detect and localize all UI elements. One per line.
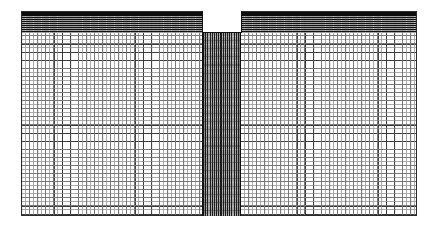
refined-column-outline: [202, 32, 241, 216]
mesh-domain: [21, 11, 417, 216]
fem-mesh-figure: Finite element mesh of a notched rectang…: [0, 0, 439, 228]
notch-outline: [202, 11, 242, 33]
figure-title: Finite element mesh of a notched rectang…: [0, 0, 1, 1]
